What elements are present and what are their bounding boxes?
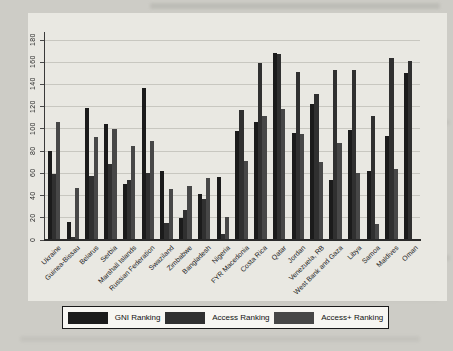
x-axis-label: FYR Macedonia: [209, 244, 249, 284]
scanned-page: 020406080100120140160180 UkraineGuinea-B…: [0, 0, 453, 351]
bar: [371, 116, 375, 240]
y-axis-line: [44, 32, 45, 241]
bar: [75, 188, 79, 240]
x-axis-label: Nigeria: [210, 244, 231, 265]
bar: [169, 189, 173, 240]
legend-item-gni: GNI Ranking: [68, 312, 161, 324]
bar: [112, 129, 116, 240]
bar: [217, 177, 221, 240]
gridline-80: [45, 151, 420, 152]
bar-group-russian-federation: [142, 88, 155, 240]
bar-group-fyr-macedonia: [235, 110, 248, 240]
bar: [375, 224, 379, 240]
bar-group-ukraine: [48, 122, 61, 240]
bar-group-nigeria: [217, 177, 230, 240]
bleed-smudge: [20, 336, 420, 342]
bar: [300, 134, 304, 240]
bar: [408, 61, 412, 240]
x-axis-label: Oman: [400, 244, 418, 262]
legend-item-access: Access Ranking: [165, 312, 269, 324]
access-plus-ranking-swatch: [274, 312, 314, 324]
bar-group-oman: [404, 61, 417, 240]
legend-label: Access+ Ranking: [321, 313, 383, 322]
gridline-100: [45, 128, 420, 129]
x-axis-label: Jordan: [286, 244, 306, 264]
gridline-20: [45, 217, 420, 218]
bar-group-belarus: [85, 108, 98, 240]
gni-ranking-swatch: [68, 312, 108, 324]
bar: [187, 186, 191, 240]
gridline-40: [45, 195, 420, 196]
gridline-140: [45, 84, 420, 85]
bar-group-jordan: [292, 72, 305, 240]
bar-group-guinea-bissau: [67, 188, 80, 240]
bar-group-libya: [348, 70, 361, 240]
y-tick-label-180: 180: [26, 25, 38, 55]
bar-group-venezuela-rb: [310, 94, 323, 240]
x-axis-label: West Bank and Gaza: [292, 244, 344, 296]
bar-group-marshall-islands: [123, 146, 136, 240]
x-axis-label: Qatar: [270, 244, 287, 261]
bar-group-samoa: [367, 116, 380, 240]
x-axis-label: Venezuela, RB: [287, 244, 325, 282]
bar-group-maldives: [385, 58, 398, 240]
x-axis-label: Maldives: [375, 244, 399, 268]
gridline-60: [45, 173, 420, 174]
gridline-180: [45, 40, 420, 41]
x-axis-label: Costa Rica: [239, 244, 268, 273]
bar: [262, 116, 266, 240]
bar: [131, 146, 135, 240]
bar: [225, 217, 229, 240]
legend-item-access-plus: Access+ Ranking: [274, 312, 383, 324]
legend-label: Access Ranking: [212, 313, 269, 322]
bleed-smudge: [150, 3, 440, 9]
x-axis-label: Swaziland: [147, 244, 175, 272]
gridline-160: [45, 62, 420, 63]
bar-group-west-bank-and-gaza: [329, 70, 342, 240]
x-axis-line: [44, 239, 421, 241]
x-axis-label: Zimbabwe: [166, 244, 194, 272]
bar-group-qatar: [273, 53, 286, 240]
bar-chart: 020406080100120140160180 UkraineGuinea-B…: [28, 13, 447, 301]
bar: [150, 141, 154, 240]
legend-label: GNI Ranking: [115, 313, 161, 322]
legend: GNI Ranking Access Ranking Access+ Ranki…: [62, 306, 389, 329]
x-axis-label: Libya: [346, 244, 363, 261]
bar: [281, 109, 285, 240]
plot-area: 020406080100120140160180: [45, 34, 420, 240]
x-axis-label: Serbia: [99, 244, 118, 263]
bar-group-swaziland: [160, 171, 173, 240]
bar: [337, 143, 341, 240]
bar-group-costa-rica: [254, 63, 267, 240]
x-axis-label: Ukraine: [40, 244, 62, 266]
bar: [356, 173, 360, 240]
x-axis-label: Guinea-Bissau: [44, 244, 81, 281]
bar: [206, 178, 210, 240]
x-axis-label: Belarus: [78, 244, 100, 266]
x-axis-label: Marshall Islands: [97, 244, 138, 285]
access-ranking-swatch: [165, 312, 205, 324]
bar: [319, 162, 323, 240]
x-axis-label: Bangladesh: [181, 244, 212, 275]
x-axis-label: Russian Federation: [108, 244, 156, 292]
x-axis-label: Samoa: [360, 244, 381, 265]
bar: [94, 137, 98, 240]
bar: [244, 161, 248, 240]
gridline-120: [45, 106, 420, 107]
bar-group-zimbabwe: [179, 186, 192, 240]
bar-group-bangladesh: [198, 178, 211, 240]
bar: [56, 122, 60, 240]
bar-group-serbia: [104, 124, 117, 240]
bar: [394, 169, 398, 240]
